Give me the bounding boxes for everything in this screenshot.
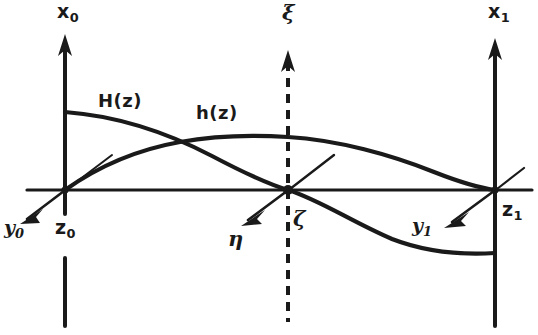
node-label-z0-subscript: 0 xyxy=(67,226,76,241)
vector-label-y0-base: y xyxy=(4,216,15,238)
vector-eta-shaft xyxy=(248,191,287,220)
vector-y1-arrowhead xyxy=(444,212,469,228)
vector-label-y1-base: y xyxy=(412,214,423,236)
node-z0-tick xyxy=(67,155,112,189)
vector-label-y0-subscript: 0 xyxy=(15,226,24,241)
curve-label-H: H(z) xyxy=(98,92,142,110)
vector-label-y0: y0 xyxy=(4,218,24,237)
vector-label-y1-subscript: 1 xyxy=(423,224,432,239)
node-label-z0: z0 xyxy=(55,218,76,237)
vector-label-y1: y1 xyxy=(412,216,432,235)
axis-label-x0-base: x xyxy=(57,0,70,22)
node-label-z0-base: z xyxy=(55,216,67,238)
node-label-z1-subscript: 1 xyxy=(514,208,523,223)
node-label-z1: z1 xyxy=(502,200,523,219)
vector-y1-shaft xyxy=(452,191,494,222)
axis-label-x1-base: x xyxy=(488,0,501,22)
node-zeta-tick xyxy=(290,155,334,189)
curve-label-h: h(z) xyxy=(196,104,238,122)
axis-label-x1: x1 xyxy=(488,2,510,21)
axis-label-x1-subscript: 1 xyxy=(501,10,510,25)
axis-label-xi: ξ xyxy=(282,2,294,23)
curve-h xyxy=(65,136,495,190)
node-label-z1-base: z xyxy=(502,198,514,220)
vector-label-eta: η xyxy=(228,228,243,249)
axis-label-x0: x0 xyxy=(57,2,79,21)
vector-y0-shaft xyxy=(27,191,64,219)
axis-label-x0-subscript: 0 xyxy=(70,10,79,25)
vector-eta-arrowhead xyxy=(241,210,265,226)
node-label-zeta: ζ xyxy=(293,208,305,229)
figure-canvas: x0 ξ x1 H(z) h(z) y0 z0 η ζ y1 z1 xyxy=(0,0,538,335)
node-z1-tick xyxy=(497,168,524,189)
diagram-svg xyxy=(0,0,538,335)
